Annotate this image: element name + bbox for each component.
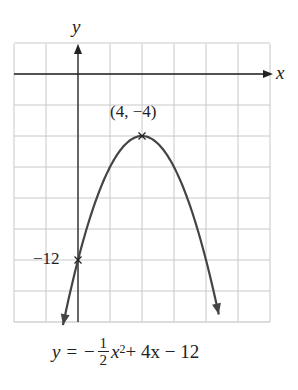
eq-numerator: 1 <box>98 336 110 352</box>
eq-fraction: 1 2 <box>98 336 110 367</box>
eq-lhs: y = − <box>52 341 96 363</box>
eq-denominator: 2 <box>100 352 108 367</box>
axes <box>14 44 273 322</box>
grid-lines <box>14 43 270 322</box>
eq-rest: + 4x − 12 <box>126 341 200 363</box>
equation-caption: y = − 1 2 x2 + 4x − 12 <box>52 336 199 367</box>
y-intercept-label: −12 <box>33 249 60 269</box>
graph-canvas <box>0 0 298 390</box>
parabola-curve <box>61 136 221 325</box>
x-axis-label: x <box>276 62 284 84</box>
eq-x: x <box>111 341 119 363</box>
vertex-label: (4, −4) <box>110 102 156 122</box>
eq-exponent: 2 <box>120 342 126 357</box>
y-axis-label: y <box>72 16 80 38</box>
